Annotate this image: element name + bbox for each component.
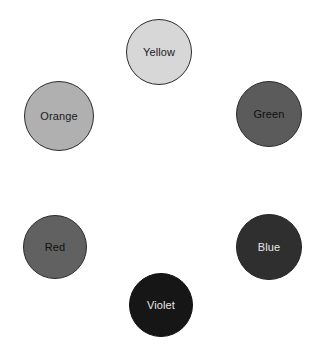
color-swatch-orange[interactable]: Orange [24,81,94,151]
color-swatch-red[interactable]: Red [23,215,87,279]
color-swatch-label-yellow: Yellow [143,47,175,58]
color-swatch-green[interactable]: Green [236,81,302,147]
color-swatch-label-green: Green [253,109,284,120]
color-swatch-label-blue: Blue [258,242,280,253]
color-swatch-label-violet: Violet [147,300,175,311]
color-swatch-violet[interactable]: Violet [129,273,193,337]
color-swatch-label-red: Red [45,242,65,253]
color-swatch-yellow[interactable]: Yellow [126,19,192,85]
color-swatch-blue[interactable]: Blue [236,214,302,280]
color-swatch-label-orange: Orange [40,111,77,122]
color-wheel-canvas: YellowOrangeGreenRedBlueViolet [0,0,315,351]
